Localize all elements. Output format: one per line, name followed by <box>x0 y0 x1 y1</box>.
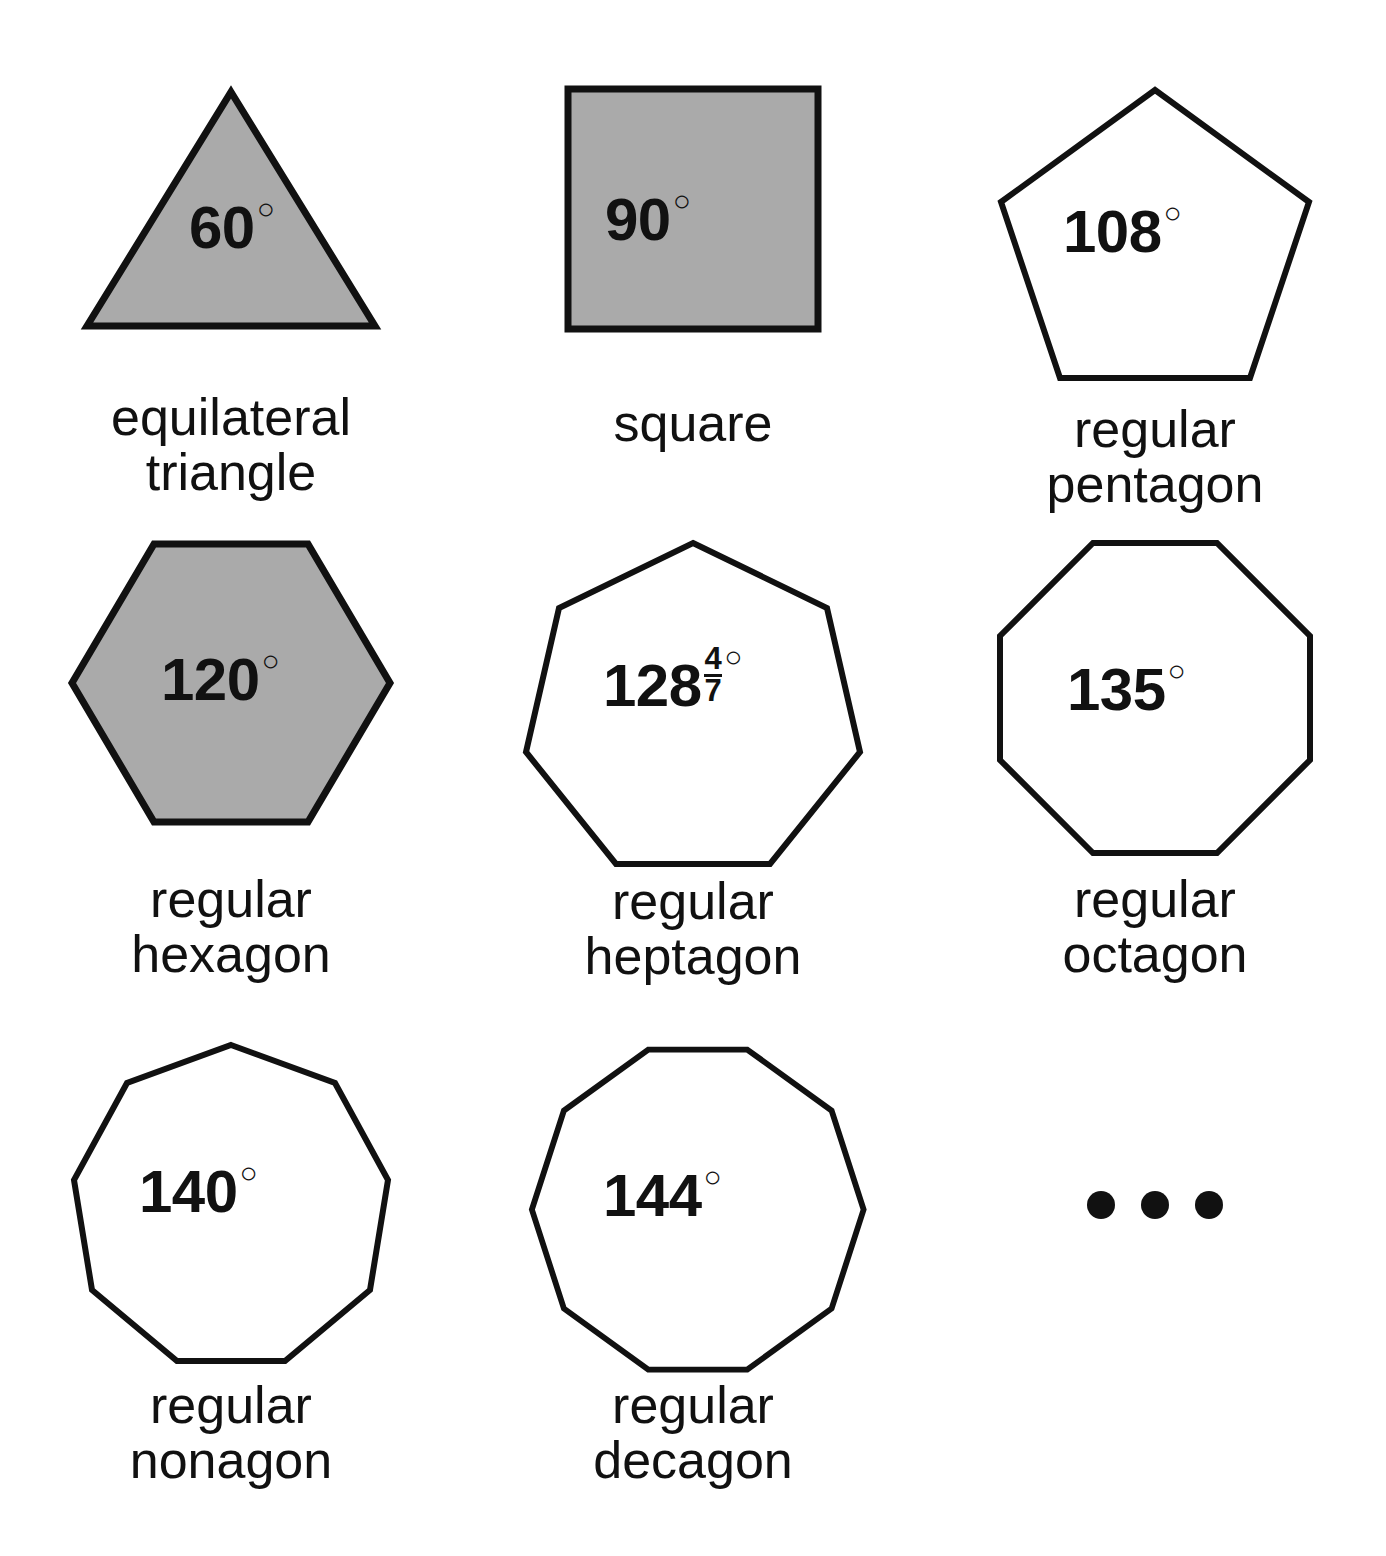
polygon-cell-pentagon: 108○ regular pentagon <box>924 0 1386 500</box>
angle-value-decagon: 144 <box>603 1166 702 1226</box>
ellipsis-dot-icon <box>1087 1191 1115 1219</box>
angle-label-pentagon: 108○ <box>1063 202 1179 262</box>
angle-label-nonagon: 140○ <box>139 1162 255 1222</box>
fraction-numerator-heptagon: 4 <box>704 645 723 674</box>
angle-label-square: 90○ <box>605 190 688 250</box>
polygon-cell-decagon: 144○ regular decagon <box>462 1020 924 1556</box>
square-shape-box: 90○ <box>523 84 863 352</box>
caption-decagon: regular decagon <box>593 1378 793 1488</box>
degree-symbol-hexagon: ○ <box>262 646 280 676</box>
caption-heptagon: regular heptagon <box>585 874 802 984</box>
degree-symbol-decagon: ○ <box>704 1162 722 1192</box>
angle-value-nonagon: 140 <box>139 1162 238 1222</box>
degree-symbol-nonagon: ○ <box>240 1158 258 1188</box>
angle-label-octagon: 135○ <box>1067 660 1183 720</box>
angle-value-square: 90 <box>605 190 671 250</box>
polygon-cell-octagon: 135○ regular octagon <box>924 500 1386 1020</box>
octagon-shape-box: 135○ <box>985 538 1325 858</box>
angle-value-heptagon: 128 <box>603 656 702 716</box>
heptagon-shape-box: 12847○ <box>523 538 863 868</box>
decagon-shape-box: 144○ <box>523 1040 863 1370</box>
angle-value-triangle: 60 <box>189 198 255 258</box>
caption-octagon: regular octagon <box>1062 872 1247 982</box>
polygon-cell-nonagon: 140○ regular nonagon <box>0 1020 462 1556</box>
caption-pentagon: regular pentagon <box>1047 402 1264 512</box>
polygon-cell-ellipsis <box>924 1020 1386 1556</box>
polygon-figure-grid: 60○ equilateral triangle 90○ square 108○… <box>0 0 1386 1556</box>
polygon-cell-triangle: 60○ equilateral triangle <box>0 0 462 500</box>
angle-label-triangle: 60○ <box>189 198 272 258</box>
ellipsis-dot-icon <box>1141 1191 1169 1219</box>
triangle-shape-box: 60○ <box>61 84 401 346</box>
angle-value-octagon: 135 <box>1067 660 1166 720</box>
polygon-cell-heptagon: 12847○ regular heptagon <box>462 500 924 1020</box>
angle-value-pentagon: 108 <box>1063 202 1162 262</box>
nonagon-shape-box: 140○ <box>61 1040 401 1370</box>
pentagon-shape-box: 108○ <box>985 84 1325 384</box>
degree-symbol-heptagon: ○ <box>724 642 742 672</box>
angle-label-heptagon: 12847○ <box>603 656 740 716</box>
ellipsis-dot-icon <box>1195 1191 1223 1219</box>
angle-fraction-heptagon: 47 <box>704 645 723 705</box>
polygon-cell-square: 90○ square <box>462 0 924 500</box>
polygon-cell-hexagon: 120○ regular hexagon <box>0 500 462 1020</box>
angle-label-hexagon: 120○ <box>161 650 277 710</box>
fraction-denominator-heptagon: 7 <box>704 674 723 706</box>
degree-symbol-square: ○ <box>673 186 691 216</box>
square-icon <box>563 84 823 334</box>
caption-square: square <box>614 396 773 451</box>
degree-symbol-octagon: ○ <box>1168 656 1186 686</box>
caption-nonagon: regular nonagon <box>130 1378 332 1488</box>
angle-value-hexagon: 120 <box>161 650 260 710</box>
hexagon-shape-box: 120○ <box>61 538 401 838</box>
angle-label-decagon: 144○ <box>603 1166 719 1226</box>
ellipsis-box <box>985 1040 1325 1370</box>
caption-hexagon: regular hexagon <box>131 872 331 982</box>
degree-symbol-pentagon: ○ <box>1164 198 1182 228</box>
caption-triangle: equilateral triangle <box>111 390 351 500</box>
degree-symbol-triangle: ○ <box>257 194 275 224</box>
